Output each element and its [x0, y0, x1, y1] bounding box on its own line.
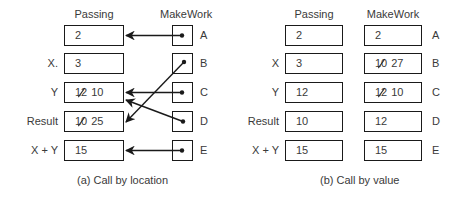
column-header-makework: MakeWork — [160, 8, 206, 21]
makework-cell-e: 15 — [364, 140, 422, 161]
cell-value: 10 — [91, 86, 103, 98]
param-label-d: D — [200, 111, 208, 132]
passing-cell-x-plus-y: 15 — [64, 140, 124, 161]
cell-value: 27 — [391, 57, 403, 69]
cell-value: 15 — [375, 144, 387, 156]
column-header-passing: Passing — [285, 8, 343, 21]
param-label-b: B — [200, 53, 207, 74]
param-label-c: C — [432, 82, 440, 103]
struck-old-value: 10 — [375, 54, 387, 72]
cell-value: 3 — [75, 57, 81, 69]
makework-cell-a: 2 — [364, 25, 422, 46]
cell-value: 25 — [91, 115, 103, 127]
passing-cell-y: 1210 — [64, 82, 124, 103]
param-label-a: A — [200, 25, 207, 46]
param-label-e: E — [200, 140, 207, 161]
makework-cell-c: 1210 — [364, 82, 422, 103]
passing-cell-a: 2 — [64, 25, 124, 46]
makework-cell-d: 12 — [364, 111, 422, 132]
pointer-cell-d — [172, 111, 193, 132]
passing-cell-x: 3 — [285, 53, 343, 74]
row-label-y: Y — [0, 82, 58, 103]
row-label-x: X — [220, 53, 279, 74]
pointer-cell-e — [172, 140, 193, 161]
makework-cell-b: 1027 — [364, 53, 422, 74]
column-header-passing: Passing — [64, 8, 124, 21]
passing-cell-y: 12 — [285, 82, 343, 103]
column-header-makework: MakeWork — [364, 8, 422, 21]
struck-old-value: 12 — [75, 83, 87, 101]
cell-value: 2 — [375, 29, 381, 41]
passing-cell-result: 1025 — [64, 111, 124, 132]
param-label-d: D — [432, 111, 440, 132]
param-label-a: A — [432, 25, 439, 46]
passing-cell-x-plus-y: 15 — [285, 140, 343, 161]
caption-a: (a) Call by location — [77, 174, 168, 187]
cell-value: 10 — [391, 86, 403, 98]
row-label-y: Y — [220, 82, 279, 103]
cell-value: 15 — [75, 144, 87, 156]
cell-value: 3 — [296, 57, 302, 69]
passing-cell-a: 2 — [285, 25, 343, 46]
cell-value: 2 — [75, 29, 81, 41]
cell-value: 12 — [375, 115, 387, 127]
passing-cell-result: 10 — [285, 111, 343, 132]
param-label-c: C — [200, 82, 208, 103]
row-label-x: X. — [0, 53, 58, 74]
row-label-result: Result — [220, 111, 279, 132]
param-label-e: E — [432, 140, 439, 161]
cell-value: 12 — [296, 86, 308, 98]
struck-old-value: 10 — [75, 112, 87, 130]
pointer-cell-b — [172, 53, 193, 74]
passing-cell-x: 3 — [64, 53, 124, 74]
pointer-cell-c — [172, 82, 193, 103]
row-label-result: Result — [0, 111, 58, 132]
pointer-cell-a — [172, 25, 193, 46]
cell-value: 10 — [296, 115, 308, 127]
row-label-x-plus-y: X + Y — [0, 140, 58, 161]
row-label-x-plus-y: X + Y — [220, 140, 279, 161]
struck-old-value: 12 — [375, 83, 387, 101]
caption-b: (b) Call by value — [320, 174, 399, 187]
cell-value: 15 — [296, 144, 308, 156]
param-label-b: B — [432, 53, 439, 74]
cell-value: 2 — [296, 29, 302, 41]
